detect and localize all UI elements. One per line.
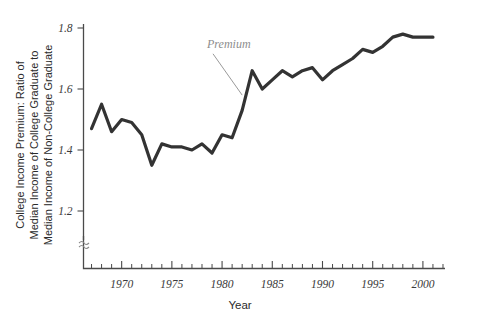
y-axis-title-line-3: Median Income of Non-College Graduate <box>42 45 54 246</box>
x-tick-label: 1970 <box>110 278 133 290</box>
y-tick-label: 1.2 <box>58 205 73 217</box>
x-tick-label: 1980 <box>211 278 234 290</box>
x-tick-label: 1990 <box>311 278 334 290</box>
x-tick-minor-group <box>92 261 443 269</box>
x-tick-label-group: 1970197519801985199019952000 <box>110 278 435 290</box>
y-axis-title: College Income Premium: Ratio of Median … <box>14 45 54 246</box>
axes <box>79 24 445 269</box>
chart-figure: College Income Premium: Ratio of Median … <box>0 0 486 326</box>
x-axis-title: Year <box>228 299 251 311</box>
y-tick-group <box>78 28 84 211</box>
y-tick-label: 1.4 <box>58 144 73 156</box>
x-tick-label: 1985 <box>261 278 284 290</box>
x-tick-label: 2000 <box>411 278 434 290</box>
axis-lines-lower <box>84 236 446 269</box>
y-tick-label: 1.8 <box>58 22 73 34</box>
annotation-leader-line <box>213 54 242 95</box>
x-tick-label: 1975 <box>160 278 183 290</box>
y-tick-label-group: 1.21.41.61.8 <box>58 22 73 217</box>
y-axis-title-line-2: Median Income of College Graduate to <box>28 51 40 240</box>
y-tick-label: 1.6 <box>58 83 73 95</box>
line-chart: College Income Premium: Ratio of Median … <box>0 0 486 326</box>
y-axis-title-line-1: College Income Premium: Ratio of <box>14 60 26 228</box>
series-line-premium <box>92 34 433 165</box>
annotation-label-premium: Premium <box>206 37 251 51</box>
x-tick-label: 1995 <box>361 278 384 290</box>
